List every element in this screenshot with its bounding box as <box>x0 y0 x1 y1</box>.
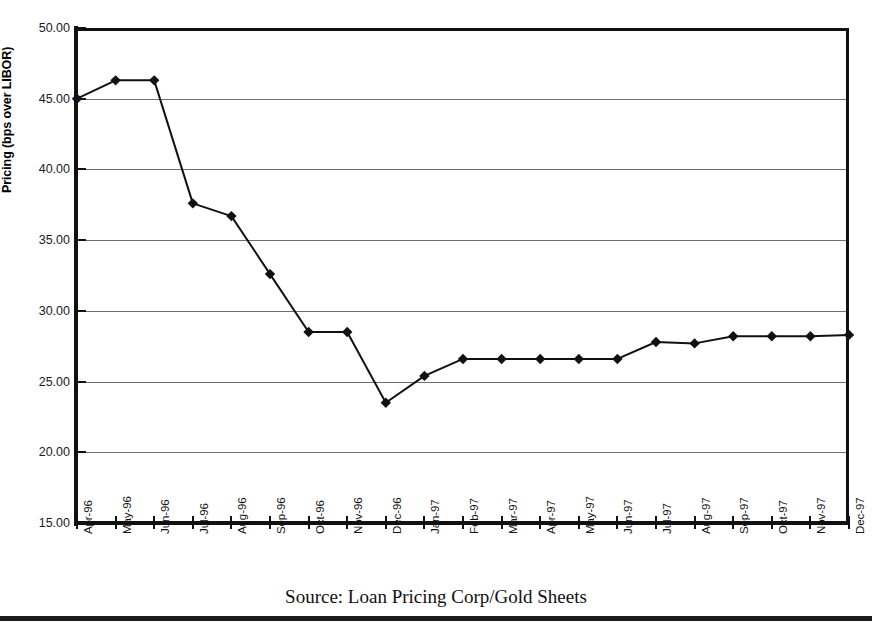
x-axis-tick-label: Aug-97 <box>700 498 712 534</box>
y-axis-tick-mark <box>77 239 86 241</box>
y-axis-tick-mark <box>77 168 86 170</box>
data-point-marker <box>458 354 468 364</box>
x-axis-tick-mark <box>732 516 734 529</box>
data-point-marker <box>574 354 584 364</box>
data-point-marker <box>535 354 545 364</box>
x-axis-tick-mark <box>694 516 696 529</box>
y-axis-tick-label: 45.00 <box>18 93 70 105</box>
y-axis-tick-mark <box>77 27 86 29</box>
y-axis-tick-label: 35.00 <box>18 234 70 246</box>
y-axis-tick-labels: 50.0045.0040.0035.0030.0025.0020.0015.00 <box>18 0 70 625</box>
data-point-marker <box>689 338 699 348</box>
plot-area <box>77 28 849 523</box>
x-axis-tick-mark <box>771 516 773 529</box>
y-axis-tick-label: 25.00 <box>18 376 70 388</box>
x-axis-tick-label: Jun-97 <box>622 499 634 534</box>
x-axis-tick-mark <box>115 516 117 529</box>
data-point-marker <box>188 198 198 208</box>
y-axis-tick-label: 30.00 <box>18 305 70 317</box>
x-axis-tick-label: Apr-97 <box>545 500 557 534</box>
y-axis-title: Pricing (bps over LIBOR) <box>0 0 18 193</box>
source-caption: Source: Loan Pricing Corp/Gold Sheets <box>0 586 872 608</box>
x-axis-tick-mark <box>269 516 271 529</box>
data-point-marker <box>226 211 236 221</box>
x-axis-tick-mark <box>848 516 850 529</box>
x-axis-tick-mark <box>308 516 310 529</box>
data-point-marker <box>612 354 622 364</box>
y-axis-tick-label: 20.00 <box>18 446 70 458</box>
y-axis-tick-label: 40.00 <box>18 163 70 175</box>
x-axis-tick-mark <box>192 516 194 529</box>
bottom-rule <box>0 616 872 621</box>
x-axis-tick-label: Jul-97 <box>661 503 673 534</box>
data-series-line <box>77 28 849 523</box>
chart-figure: Pricing (bps over LIBOR) 50.0045.0040.00… <box>0 0 872 625</box>
x-axis-tick-mark <box>616 516 618 529</box>
x-axis-tick-label: Apr-96 <box>82 500 94 534</box>
x-axis-tick-mark <box>539 516 541 529</box>
x-axis-tick-mark <box>346 516 348 529</box>
x-axis-tick-mark <box>501 516 503 529</box>
x-axis-tick-label: Oct-97 <box>777 500 789 534</box>
data-point-marker <box>844 330 854 340</box>
y-axis-tick-mark <box>77 522 86 524</box>
y-axis-tick-label: 15.00 <box>18 517 70 529</box>
data-point-marker <box>149 75 159 85</box>
x-axis-tick-label: Aug-96 <box>236 498 248 534</box>
y-axis-tick-mark <box>77 98 86 100</box>
data-point-marker <box>767 331 777 341</box>
x-axis-tick-label: Feb-97 <box>468 498 480 534</box>
x-axis-tick-mark <box>230 516 232 529</box>
y-axis-tick-label: 50.00 <box>18 22 70 34</box>
x-axis-tick-label: Sep-97 <box>738 498 750 534</box>
x-axis-tick-label: May-97 <box>584 496 596 534</box>
data-point-marker <box>728 331 738 341</box>
x-axis-tick-mark <box>578 516 580 529</box>
x-axis-tick-label: Jul-96 <box>198 503 210 534</box>
y-axis-tick-mark <box>77 310 86 312</box>
x-axis-tick-mark <box>462 516 464 529</box>
x-axis-tick-label: Mar-97 <box>507 498 519 534</box>
x-axis-tick-mark <box>423 516 425 529</box>
x-axis-tick-label: Oct-96 <box>314 500 326 534</box>
data-point-marker <box>805 331 815 341</box>
data-point-marker <box>496 354 506 364</box>
x-axis-tick-label: Nov-96 <box>352 498 364 534</box>
data-point-marker <box>303 327 313 337</box>
data-point-marker <box>265 269 275 279</box>
x-axis-tick-mark <box>153 516 155 529</box>
x-axis-tick-label: May-96 <box>121 496 133 534</box>
x-axis-tick-label: Jun-96 <box>159 499 171 534</box>
x-axis-tick-mark <box>385 516 387 529</box>
data-point-marker <box>342 327 352 337</box>
data-point-marker <box>110 75 120 85</box>
y-axis-tick-mark <box>77 451 86 453</box>
x-axis-tick-mark <box>655 516 657 529</box>
x-axis-tick-label: Dec-97 <box>854 498 866 534</box>
y-axis-tick-mark <box>77 381 86 383</box>
x-axis-tick-mark <box>809 516 811 529</box>
x-axis-tick-label: Sep-96 <box>275 498 287 534</box>
x-axis-tick-label: Jan-97 <box>429 499 441 534</box>
x-axis-tick-label: Dec-96 <box>391 498 403 534</box>
x-axis-tick-label: Nov-97 <box>815 498 827 534</box>
data-point-marker <box>651 337 661 347</box>
